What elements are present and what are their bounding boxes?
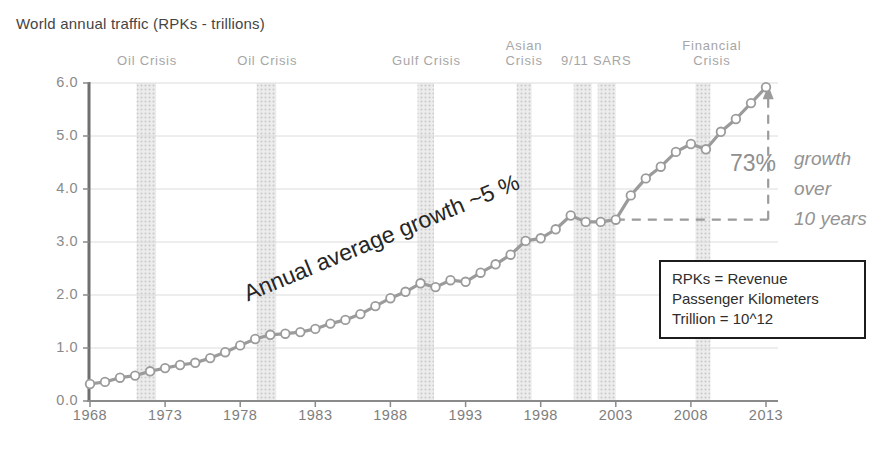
legend-line: RPKs = Revenue <box>672 269 854 289</box>
data-point <box>236 341 245 350</box>
data-point <box>326 319 335 328</box>
data-point <box>491 260 500 269</box>
data-point <box>281 329 290 338</box>
chart: World annual traffic (RPKs - trillions) … <box>0 0 889 452</box>
growth-note-line: over <box>794 174 867 204</box>
data-point <box>657 162 666 171</box>
x-axis-tick-label: 2003 <box>589 407 643 423</box>
data-point <box>371 302 380 311</box>
data-point <box>431 283 440 292</box>
data-point <box>206 354 215 363</box>
y-axis-tick-label: 5.0 <box>36 127 78 143</box>
data-point <box>461 278 470 287</box>
legend-note-box: RPKs = Revenue Passenger Kilometers Tril… <box>659 260 866 339</box>
data-point <box>341 316 350 325</box>
data-point <box>551 225 560 234</box>
data-point <box>732 115 741 124</box>
data-point <box>596 218 605 227</box>
y-axis-tick-label: 2.0 <box>36 286 78 302</box>
data-point <box>116 373 125 382</box>
data-point <box>311 325 320 334</box>
x-axis-tick-label: 2008 <box>664 407 718 423</box>
x-axis-tick-label: 1983 <box>288 407 342 423</box>
crisis-label: Financial Crisis <box>682 38 741 68</box>
growth-note-line: growth <box>794 144 867 174</box>
data-point <box>221 348 230 357</box>
data-point <box>161 364 170 373</box>
x-axis-tick-label: 1998 <box>514 407 568 423</box>
x-axis-tick-label: 1968 <box>63 407 117 423</box>
data-point <box>266 331 275 340</box>
y-axis-tick-label: 1.0 <box>36 339 78 355</box>
data-point <box>86 380 95 389</box>
y-axis-tick-label: 6.0 <box>36 74 78 90</box>
data-point <box>672 148 681 157</box>
data-point <box>356 310 365 319</box>
legend-line: Passenger Kilometers <box>672 289 854 309</box>
data-point <box>521 237 530 246</box>
data-point <box>506 250 515 259</box>
data-point <box>101 378 110 387</box>
data-point <box>131 371 140 380</box>
data-point <box>762 83 771 92</box>
data-point <box>536 234 545 243</box>
growth-note: growth over 10 years <box>794 144 867 234</box>
x-axis-tick-label: 2013 <box>739 407 793 423</box>
crisis-label: Gulf Crisis <box>392 53 461 68</box>
x-axis-tick-label: 1993 <box>439 407 493 423</box>
y-axis-tick-label: 0.0 <box>36 392 78 408</box>
chart-title: World annual traffic (RPKs - trillions) <box>16 15 265 32</box>
data-point <box>687 140 696 149</box>
data-point <box>566 211 575 220</box>
data-point <box>581 218 590 227</box>
crisis-label: Asian Crisis <box>505 38 542 68</box>
data-point <box>717 128 726 137</box>
data-point <box>446 276 455 285</box>
data-point <box>642 174 651 183</box>
crisis-label: Oil Crisis <box>237 53 297 68</box>
data-point <box>401 288 410 297</box>
data-point <box>176 361 185 370</box>
y-axis-tick-label: 3.0 <box>36 233 78 249</box>
growth-percent-label: 73% <box>712 150 776 177</box>
data-point <box>627 191 636 200</box>
data-point <box>612 215 621 224</box>
data-point <box>191 359 200 368</box>
growth-note-line: 10 years <box>794 204 867 234</box>
data-point <box>251 335 260 344</box>
data-point <box>747 99 756 108</box>
x-axis-tick-label: 1978 <box>213 407 267 423</box>
crisis-label: Oil Crisis <box>117 53 177 68</box>
x-axis-tick-label: 1988 <box>363 407 417 423</box>
data-point <box>416 279 425 288</box>
legend-line: Trillion = 10^12 <box>672 309 854 329</box>
x-axis-tick-label: 1973 <box>138 407 192 423</box>
data-point <box>702 145 711 154</box>
data-point <box>386 294 395 303</box>
data-point <box>146 367 155 376</box>
data-point <box>296 328 305 337</box>
data-point <box>476 268 485 277</box>
y-axis-tick-label: 4.0 <box>36 180 78 196</box>
crisis-label: 9/11 SARS <box>561 53 632 68</box>
